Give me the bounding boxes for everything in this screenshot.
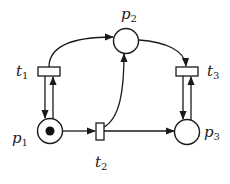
place-p2 — [114, 29, 139, 54]
place-p1 — [38, 119, 63, 144]
transition-t1 — [38, 67, 60, 76]
transition-t3 — [176, 67, 198, 76]
arc-t1-p2 — [49, 37, 113, 67]
token-icon — [46, 127, 55, 136]
label-t2: t2 — [95, 153, 107, 172]
label-p3: p3 — [204, 123, 220, 142]
label-t3: t3 — [207, 62, 219, 81]
transition-t2 — [96, 123, 104, 140]
arc-t2-p2 — [104, 54, 124, 127]
label-p1: p1 — [12, 129, 28, 148]
label-p2: p2 — [121, 5, 137, 24]
arc-p2-t3 — [139, 40, 186, 66]
place-p3 — [175, 120, 200, 145]
petri-net-diagram: p1 p2 p3 t1 t2 t3 — [0, 0, 230, 184]
label-t1: t1 — [16, 62, 28, 81]
